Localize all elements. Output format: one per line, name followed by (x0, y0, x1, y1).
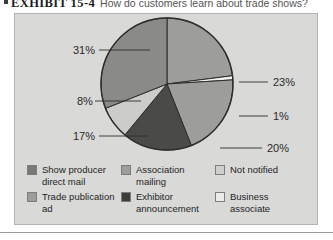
pie-value-label: 23% (273, 76, 295, 88)
pie-slice[interactable] (167, 18, 232, 84)
legend-row: Show producer direct mailAssociation mai… (27, 164, 309, 191)
pie-chart-area: 31%23%1%20%17%8% (15, 14, 319, 162)
square-bullet-icon (4, 0, 8, 4)
pie-value-label: 20% (267, 142, 289, 154)
legend-label: Show producer direct mail (42, 164, 118, 187)
legend-item[interactable]: Trade publication ad (27, 191, 121, 218)
legend-label: Trade publication ad (42, 191, 118, 214)
legend-color-swatch (215, 165, 225, 175)
legend-item[interactable]: Business associate (215, 191, 309, 218)
exhibit-title-text: How do customers learn about trade shows… (100, 0, 308, 7)
legend-item[interactable]: Not notified (215, 164, 309, 191)
legend-label: Association mailing (136, 164, 212, 187)
legend-label: Business associate (230, 191, 306, 214)
pie-value-label: 17% (73, 130, 95, 142)
exhibit-panel: 31%23%1%20%17%8% Show producer direct ma… (14, 13, 318, 225)
pie-value-label: 8% (77, 95, 93, 107)
legend-label: Exhibitor announcement (136, 191, 212, 214)
legend-color-swatch (121, 192, 131, 202)
page-divider (0, 232, 333, 233)
legend-label: Not notified (230, 164, 278, 176)
legend-item[interactable]: Association mailing (121, 164, 215, 191)
pie-value-label: 31% (73, 44, 95, 56)
legend-color-swatch (27, 165, 37, 175)
chart-legend: Show producer direct mailAssociation mai… (27, 164, 309, 222)
exhibit-number-label: EXHIBIT 15-4 (11, 0, 95, 7)
exhibit-title-bar: EXHIBIT 15-4How do customers learn about… (4, 0, 333, 7)
legend-item[interactable]: Show producer direct mail (27, 164, 121, 191)
legend-color-swatch (215, 192, 225, 202)
legend-row: Trade publication adExhibitor announceme… (27, 191, 309, 218)
pie-chart-svg (15, 14, 319, 162)
legend-color-swatch (121, 165, 131, 175)
pie-slice-group (101, 18, 233, 150)
legend-color-swatch (27, 192, 37, 202)
pie-value-label: 1% (273, 110, 289, 122)
legend-item[interactable]: Exhibitor announcement (121, 191, 215, 218)
